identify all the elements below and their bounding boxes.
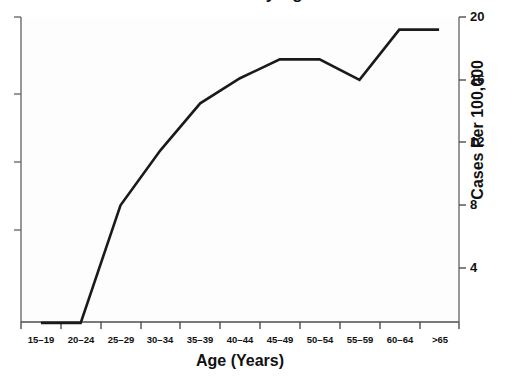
ytick-label-4: 4 — [470, 260, 477, 275]
xtick-label-40-44: 40–44 — [227, 334, 253, 345]
xtick-label-35-39: 35–39 — [187, 334, 213, 345]
data-series-line — [41, 30, 439, 323]
x-axis-ticks — [21, 322, 459, 329]
y-axis-title-label: Cases Per 100,000 — [469, 60, 487, 200]
xtick-label-60-64: 60–64 — [387, 334, 413, 345]
x-axis-title: Age (Years) — [21, 352, 459, 370]
y-axis-ticks — [459, 17, 466, 268]
plot-svg — [0, 0, 525, 388]
xtick-label-50-54: 50–54 — [307, 334, 333, 345]
xtick-label-over-65: >65 — [432, 334, 448, 345]
xtick-label-55-59: 55–59 — [347, 334, 373, 345]
xtick-label-30-34: 30–34 — [147, 334, 173, 345]
xtick-label-20-24: 20–24 — [68, 334, 94, 345]
y-axis-title: Cases Per 100,000 — [469, 60, 487, 200]
xtick-label-25-29: 25–29 — [108, 334, 134, 345]
xtick-label-45-49: 45–49 — [267, 334, 293, 345]
ytick-label-20: 20 — [470, 9, 484, 24]
xtick-label-15-19: 15–19 — [28, 334, 54, 345]
chart-figure: Rate by Age — [0, 0, 525, 388]
